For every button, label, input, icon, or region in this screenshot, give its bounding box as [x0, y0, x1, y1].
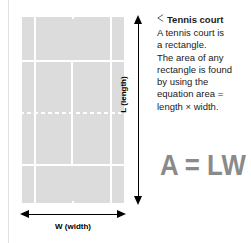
arrow-shaft [27, 214, 119, 215]
center-mark-bottom [72, 201, 74, 205]
caption-title: Tennis court [167, 14, 223, 25]
caption-line: A tennis court is [157, 27, 251, 39]
center-mark-top [72, 15, 74, 19]
length-dimension-arrow [133, 15, 144, 205]
caption-line: a rectangle. [157, 39, 251, 51]
caption-line: length × width. [157, 101, 251, 113]
figure-panel: L (length) W (width) Tennis court A tenn… [0, 0, 251, 243]
triangle-left-icon [157, 13, 164, 25]
caption-line: rectangle is found [157, 64, 251, 76]
caption-line: by using the [157, 76, 251, 88]
caption-block: Tennis court A tennis court is a rectang… [157, 13, 251, 113]
service-line-bottom [20, 164, 126, 166]
length-dimension-label: L (length) [119, 65, 128, 125]
service-line-top [20, 60, 126, 62]
caption-line: equation area = [157, 88, 251, 100]
singles-sideline-right-line [110, 15, 112, 205]
doubles-sideline-left-line [20, 15, 22, 205]
arrow-shaft [138, 22, 139, 198]
singles-sideline-left-line [34, 15, 36, 205]
arrow-head-down-icon [134, 196, 142, 205]
caption-heading: Tennis court [157, 13, 251, 26]
margin-rule [8, 0, 9, 243]
caption-body: A tennis court is a rectangle. The area … [157, 27, 251, 113]
arrow-head-right-icon [117, 210, 126, 218]
width-dimension-label: W (width) [20, 222, 126, 231]
area-formula: A = LW [160, 148, 246, 182]
width-dimension-arrow [20, 209, 126, 220]
tennis-court-diagram [20, 15, 126, 205]
net-line [20, 112, 126, 114]
caption-line: The area of any [157, 52, 251, 64]
